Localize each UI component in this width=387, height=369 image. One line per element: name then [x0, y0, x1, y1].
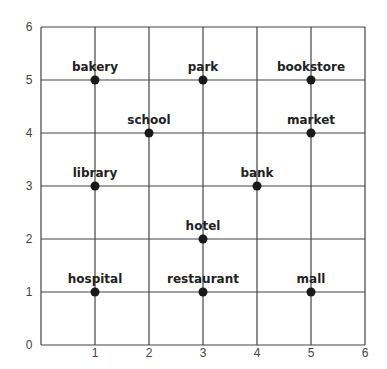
point-marker	[91, 76, 100, 85]
point-marker	[199, 235, 208, 244]
point-marker	[307, 76, 316, 85]
point-label: hotel	[186, 219, 221, 233]
point-marker	[91, 182, 100, 191]
y-tick-label: 6	[26, 20, 33, 34]
point-label: mall	[297, 272, 326, 286]
point-library: library	[73, 166, 118, 191]
x-tick-label: 5	[308, 346, 315, 360]
x-tick-label: 3	[200, 346, 207, 360]
point-marker	[253, 182, 262, 191]
point-bank: bank	[240, 166, 274, 191]
x-tick-label: 2	[146, 346, 153, 360]
point-label: bakery	[72, 60, 118, 74]
point-label: school	[127, 113, 170, 127]
point-hotel: hotel	[186, 219, 221, 244]
point-marker	[91, 288, 100, 297]
point-marker	[199, 76, 208, 85]
point-school: school	[127, 113, 170, 138]
y-tick-label: 4	[26, 126, 33, 140]
point-label: library	[73, 166, 118, 180]
y-tick-label: 3	[26, 179, 33, 193]
point-label: hospital	[68, 272, 123, 286]
x-tick-label: 1	[92, 346, 99, 360]
data-points: bakeryparkbookstoreschoolmarketlibraryba…	[68, 60, 345, 297]
point-marker	[199, 288, 208, 297]
point-park: park	[188, 60, 220, 85]
point-label: bookstore	[277, 60, 345, 74]
x-tick-label: 6	[362, 346, 369, 360]
y-axis-ticks: 0123456	[26, 20, 33, 352]
grid-lines	[41, 27, 365, 345]
point-mall: mall	[297, 272, 326, 297]
y-tick-label: 2	[26, 232, 33, 246]
y-tick-label: 1	[26, 285, 33, 299]
point-market: market	[287, 113, 335, 138]
point-marker	[307, 129, 316, 138]
point-label: park	[188, 60, 220, 74]
y-tick-label: 0	[26, 338, 33, 352]
point-marker	[145, 129, 154, 138]
point-bookstore: bookstore	[277, 60, 345, 85]
x-axis-ticks: 123456	[92, 346, 369, 360]
point-label: restaurant	[167, 272, 239, 286]
y-tick-label: 5	[26, 73, 33, 87]
point-marker	[307, 288, 316, 297]
x-tick-label: 4	[254, 346, 261, 360]
point-bakery: bakery	[72, 60, 118, 85]
point-label: market	[287, 113, 335, 127]
point-restaurant: restaurant	[167, 272, 239, 297]
point-label: bank	[240, 166, 274, 180]
coordinate-grid-chart: 0123456 123456 bakeryparkbookstoreschool…	[0, 0, 387, 369]
point-hospital: hospital	[68, 272, 123, 297]
